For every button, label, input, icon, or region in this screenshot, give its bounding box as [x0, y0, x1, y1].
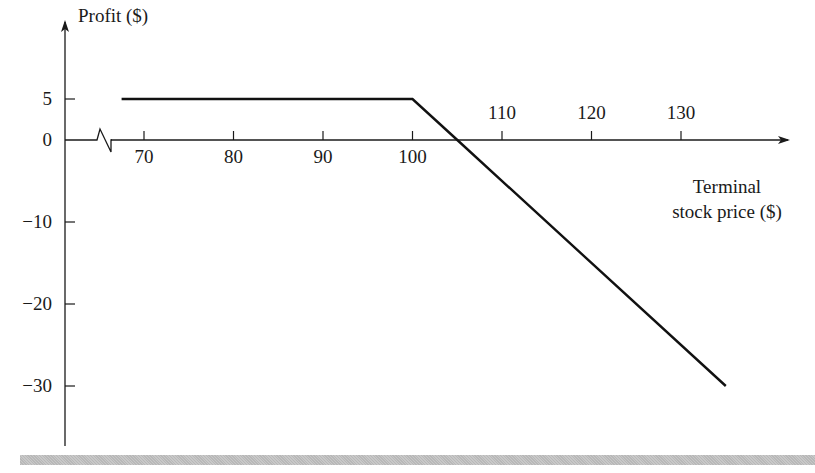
- x-tick-label: 130: [667, 102, 696, 123]
- ticks: [65, 99, 681, 386]
- y-tick-label: −10: [22, 211, 52, 232]
- x-tick-label: 80: [224, 146, 243, 167]
- x-tick-label: 90: [314, 146, 333, 167]
- y-tick-label: −20: [22, 293, 52, 314]
- x-tick-label: 110: [488, 102, 516, 123]
- x-tick-label: 100: [398, 146, 427, 167]
- profit-line: [122, 99, 726, 386]
- x-axis-label: stock price ($): [672, 201, 782, 223]
- y-axis-label: Profit ($): [78, 5, 148, 27]
- y-tick-label: 5: [43, 88, 53, 109]
- x-tick-label: 70: [135, 146, 154, 167]
- x-tick-label: 120: [577, 102, 606, 123]
- axis-labels: 70809010011012013050−10−20−30Profit ($)T…: [22, 5, 782, 396]
- y-tick-label: 0: [43, 129, 53, 150]
- bottom-rule: [20, 455, 815, 465]
- x-axis-label: Terminal: [693, 176, 761, 197]
- data-series: [122, 99, 726, 386]
- y-tick-label: −30: [22, 375, 52, 396]
- profit-chart: 70809010011012013050−10−20−30Profit ($)T…: [0, 0, 815, 473]
- axes: [65, 22, 788, 446]
- x-axis-break-icon: [65, 129, 112, 152]
